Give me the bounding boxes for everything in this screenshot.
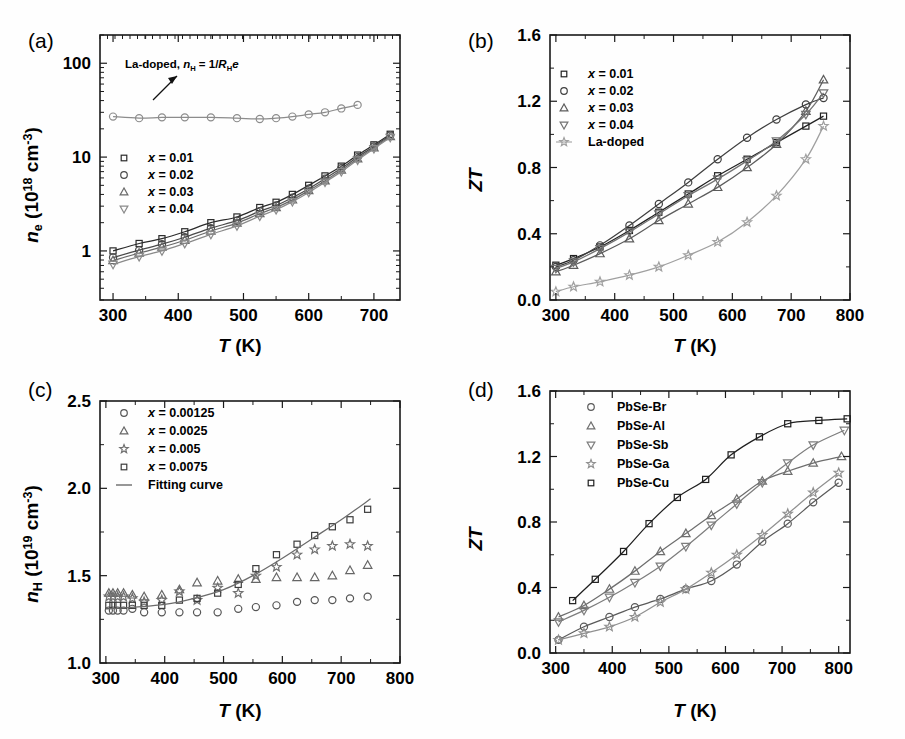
panel-a-axes: 300400500600700110100 <box>63 35 400 325</box>
y-tick-label: 0.4 <box>517 579 541 598</box>
x-tick-label: 500 <box>659 306 687 325</box>
x-tick-label: 400 <box>598 659 626 678</box>
panel-b-xaxis-title: T (K) <box>673 335 716 356</box>
x-tick-label: 300 <box>541 659 569 678</box>
y-tick-label: 0.8 <box>517 513 541 532</box>
legend-item-label: x = 0.04 <box>147 202 194 216</box>
panel-d: (d) 3004005006007008000.00.40.81.21.6 Pb… <box>450 369 905 739</box>
x-tick-label: 600 <box>268 669 296 688</box>
series-x-0-0075 <box>106 506 371 608</box>
panel-d-legend: PbSe-BrPbSe-AlPbSe-SbPbSe-GaPbSe-Cu <box>587 400 670 490</box>
series-pbse-ga <box>554 468 843 644</box>
x-tick-label: 700 <box>327 669 355 688</box>
y-tick-label: 2.5 <box>67 392 91 411</box>
x-tick-label: 800 <box>836 306 864 325</box>
panel-a-xaxis-title: T (K) <box>218 335 261 356</box>
panel-d-plotarea <box>554 416 850 644</box>
la-doped-annotation-text: La-doped, nH = 1/RHe <box>125 58 239 73</box>
panel-c-plotarea <box>104 499 372 616</box>
panel-c-xaxis-title: T (K) <box>218 700 261 721</box>
y-tick-label: 1.5 <box>67 567 91 586</box>
x-tick-label: 400 <box>601 306 629 325</box>
legend-item-label: x = 0.02 <box>587 84 634 98</box>
legend-item-label: PbSe-Cu <box>617 476 669 490</box>
panel-a-legend: x = 0.01x = 0.02x = 0.03x = 0.04 <box>120 151 193 216</box>
x-tick-label: 300 <box>99 306 127 325</box>
panel-b-chart: (b) 3004005006007008000.00.40.81.21.6 x … <box>450 0 905 370</box>
series-x-0-0025 <box>105 561 372 600</box>
legend-item-label: x = 0.01 <box>147 151 194 165</box>
legend-item-label: x = 0.03 <box>587 101 634 115</box>
y-tick-label: 0.8 <box>517 159 541 178</box>
x-tick-label: 700 <box>777 306 805 325</box>
x-tick-label: 700 <box>360 306 388 325</box>
svg-text:ZT: ZT <box>465 167 486 193</box>
x-tick-label: 500 <box>229 306 257 325</box>
panel-a-annotation: La-doped, nH = 1/RHe <box>125 58 239 100</box>
panel-a-yaxis-title: ne (1018 cm-3) <box>21 127 45 243</box>
x-tick-label: 600 <box>295 306 323 325</box>
svg-text:nH (1019 cm-3): nH (1019 cm-3) <box>21 485 45 603</box>
panel-c: (c) 3004005006007008001.01.52.02.5 x = 0… <box>0 369 455 739</box>
legend-item-label: x = 0.005 <box>147 442 201 456</box>
legend-item-label: x = 0.04 <box>587 118 634 132</box>
y-tick-label: 1.2 <box>517 448 541 467</box>
svg-text:ne (1018 cm-3): ne (1018 cm-3) <box>21 127 45 243</box>
series-la-doped <box>109 101 361 122</box>
y-tick-label: 1 <box>82 242 91 261</box>
panel-b: (b) 3004005006007008000.00.40.81.21.6 x … <box>450 0 905 370</box>
panel-b-label: (b) <box>468 29 494 52</box>
panel-a-chart: (a) 300400500600700110100 x = 0.01x = 0.… <box>0 0 455 370</box>
legend-item-label: x = 0.01 <box>587 67 634 81</box>
legend-item-label: x = 0.0075 <box>147 460 207 474</box>
legend-item-label: PbSe-Br <box>617 400 666 414</box>
panel-c-chart: (c) 3004005006007008001.01.52.02.5 x = 0… <box>0 369 455 739</box>
x-tick-label: 700 <box>768 659 796 678</box>
x-tick-label: 500 <box>209 669 237 688</box>
x-tick-label: 400 <box>164 306 192 325</box>
y-tick-label: 0.4 <box>517 225 541 244</box>
legend-item-label: x = 0.03 <box>147 185 194 199</box>
panel-c-yaxis-title: nH (1019 cm-3) <box>21 485 45 603</box>
panel-b-axes: 3004005006007008000.00.40.81.21.6 <box>517 26 864 325</box>
y-tick-label: 0.0 <box>517 644 541 663</box>
legend-item-label: PbSe-Ga <box>617 457 670 471</box>
panel-d-chart: (d) 3004005006007008000.00.40.81.21.6 Pb… <box>450 369 905 739</box>
y-tick-label: 0.0 <box>517 291 541 310</box>
series-fitting-curve <box>106 499 371 609</box>
panel-b-legend: x = 0.01x = 0.02x = 0.03x = 0.04La-doped <box>556 67 644 149</box>
x-tick-label: 300 <box>92 669 120 688</box>
legend-item-label: x = 0.00125 <box>147 406 214 420</box>
x-tick-label: 600 <box>711 659 739 678</box>
svg-text:ZT: ZT <box>465 526 486 552</box>
y-tick-label: 1.6 <box>517 382 541 401</box>
x-tick-label: 500 <box>655 659 683 678</box>
legend-item-label: PbSe-Sb <box>617 438 669 452</box>
x-tick-label: 400 <box>151 669 179 688</box>
legend-item-label: PbSe-Al <box>617 419 665 433</box>
series-pbse-al <box>554 452 845 620</box>
panel-b-yaxis-title: ZT <box>465 167 486 193</box>
legend-item-label: x = 0.0025 <box>147 424 207 438</box>
legend-item-label: x = 0.02 <box>147 168 194 182</box>
panel-d-yaxis-title: ZT <box>465 526 486 552</box>
y-tick-label: 2.0 <box>67 479 91 498</box>
panel-c-label: (c) <box>28 378 53 401</box>
y-tick-label: 10 <box>72 148 91 167</box>
legend-item-label: La-doped <box>588 135 644 149</box>
y-tick-label: 1.0 <box>67 654 91 673</box>
x-tick-label: 600 <box>718 306 746 325</box>
figure-root: (a) 300400500600700110100 x = 0.01x = 0.… <box>0 0 905 739</box>
panel-a-label: (a) <box>28 29 54 52</box>
y-tick-label: 100 <box>63 54 91 73</box>
panel-c-axes: 3004005006007008001.01.52.02.5 <box>67 392 414 688</box>
x-tick-label: 300 <box>542 306 570 325</box>
panel-d-label: (d) <box>468 378 494 401</box>
panel-c-legend: x = 0.00125x = 0.0025x = 0.005x = 0.0075… <box>116 406 223 492</box>
y-tick-label: 1.2 <box>517 92 541 111</box>
panel-a: (a) 300400500600700110100 x = 0.01x = 0.… <box>0 0 455 370</box>
y-tick-label: 1.6 <box>517 26 541 45</box>
panel-d-xaxis-title: T (K) <box>673 700 716 721</box>
legend-item-label: Fitting curve <box>148 478 223 492</box>
x-tick-label: 800 <box>824 659 852 678</box>
